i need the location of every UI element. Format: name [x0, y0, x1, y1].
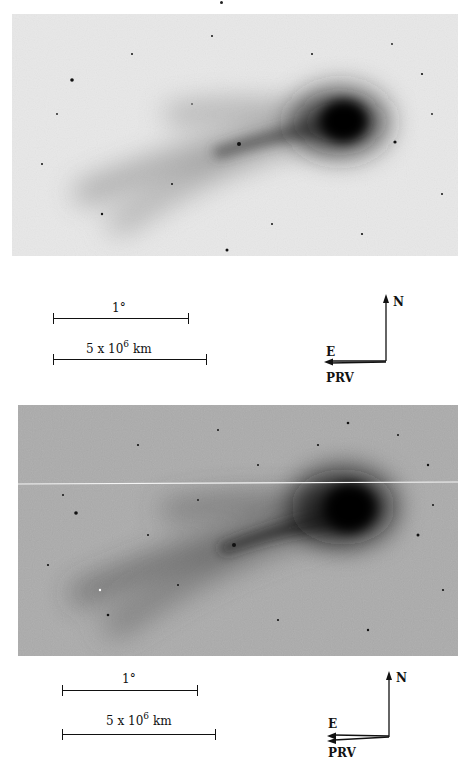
scale-bar-degree: [54, 318, 188, 319]
east-label: E: [326, 346, 335, 358]
prv-label: PRV: [326, 372, 354, 384]
distance-base-bottom: 5 x 10: [106, 714, 143, 728]
north-label-bottom: N: [396, 672, 407, 684]
north-label: N: [393, 296, 404, 308]
distance-exponent-bottom: 6: [143, 711, 149, 721]
stray-dot: [220, 1, 223, 4]
scale-bar-distance: [54, 359, 206, 360]
distance-unit: km: [133, 342, 152, 356]
scale-label-distance-bottom: 5 x 106 km: [106, 712, 172, 727]
scale-label-degree-bottom: 1°: [122, 673, 136, 685]
scale-bar-degree-bottom: [63, 690, 197, 691]
scale-label-distance: 5 x 106 km: [86, 340, 152, 355]
prv-label-bottom: PRV: [328, 747, 356, 759]
scale-label-degree: 1°: [112, 302, 126, 314]
scale-bar-distance-bottom: [63, 734, 215, 735]
east-label-bottom: E: [328, 718, 337, 730]
distance-unit-bottom: km: [153, 714, 172, 728]
comet-image-top: [12, 14, 458, 256]
comet-image-bottom: [18, 405, 458, 656]
distance-exponent: 6: [123, 339, 129, 349]
distance-base: 5 x 10: [86, 342, 123, 356]
